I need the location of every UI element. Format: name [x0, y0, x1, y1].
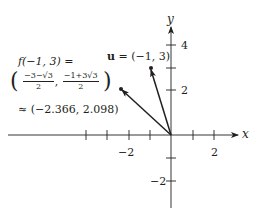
y-axis-label: y: [167, 13, 174, 25]
f-equation-line1: f(−1, 3) =: [18, 56, 74, 67]
vector-u-symbol: u: [107, 50, 115, 63]
y-tick-label-4: 4: [181, 40, 188, 51]
vector-u-coords: = (−1, 3): [115, 50, 170, 63]
fraction-1: −3−√32: [23, 72, 54, 91]
f-equation-approx: ≈ (−2.366, 2.098): [18, 104, 119, 115]
y-tick-label-neg2: −2: [150, 176, 166, 187]
vector-f-u-endpoint: [119, 87, 123, 91]
vector-u-endpoint: [149, 66, 153, 70]
close-paren: ): [103, 68, 112, 93]
f-equation-exact: ( −3−√32, −1+3√32 ): [10, 70, 112, 92]
vector-u-label: u = (−1, 3): [107, 51, 170, 62]
y-tick-label-2: 2: [181, 85, 188, 96]
x-tick-label-2: 2: [211, 147, 218, 158]
x-axis-label: x: [242, 128, 249, 140]
f-equation-text: f(−1, 3) =: [18, 55, 74, 68]
open-paren: (: [10, 68, 19, 93]
fraction-2: −1+3√32: [63, 72, 99, 91]
x-tick-label-neg2: −2: [118, 147, 134, 158]
